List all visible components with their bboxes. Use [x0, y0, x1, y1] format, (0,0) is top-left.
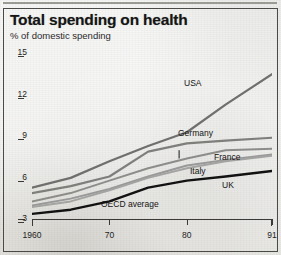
x-axis-tick — [187, 219, 188, 225]
x-axis-tick-label: 1960 — [23, 230, 42, 240]
series-line-usa — [32, 74, 272, 187]
series-label-usa: USA — [184, 78, 201, 88]
x-axis-tick-label: 70 — [105, 230, 114, 240]
x-axis-tick — [32, 219, 33, 225]
y-axis-tick — [18, 139, 24, 140]
y-axis-tick-label: 6 — [7, 172, 27, 182]
x-axis — [32, 219, 272, 226]
y-axis-tick — [18, 98, 24, 99]
chart-subtitle: % of domestic spending — [10, 30, 111, 41]
x-axis-tick — [272, 219, 273, 225]
y-axis-tick-label: 15 — [7, 47, 27, 57]
top-rule — [3, 2, 277, 4]
series-line-germany — [32, 138, 272, 193]
x-axis-tick-label: 91 — [267, 230, 276, 240]
series-label-germany: Germany — [178, 128, 213, 138]
y-axis-tick — [18, 56, 24, 57]
series-label-oecd-average: OECD average — [101, 199, 159, 209]
y-axis-tick-label: 3 — [7, 213, 27, 223]
series-lines — [32, 52, 272, 218]
plot-area — [32, 52, 272, 218]
chart-figure: Total spending on health % of domestic s… — [0, 0, 281, 255]
y-axis-tick-label: 12 — [7, 89, 27, 99]
chart-title: Total spending on health — [10, 11, 187, 28]
x-axis-tick — [109, 219, 110, 225]
y-axis-tick — [18, 222, 24, 223]
series-label-france: France — [214, 152, 240, 162]
series-label-uk: UK — [222, 180, 234, 190]
y-axis-tick — [18, 181, 24, 182]
series-line-italy — [32, 154, 272, 205]
series-label-italy: Italy — [190, 166, 206, 176]
y-axis-tick-label: 9 — [7, 130, 27, 140]
x-axis-tick-label: 80 — [182, 230, 191, 240]
